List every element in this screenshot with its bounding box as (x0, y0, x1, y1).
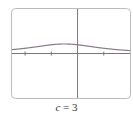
caption-equals: = (60, 101, 72, 113)
caption: c = 3 (0, 101, 133, 113)
function-curve (12, 44, 130, 51)
caption-value: 3 (72, 101, 78, 113)
